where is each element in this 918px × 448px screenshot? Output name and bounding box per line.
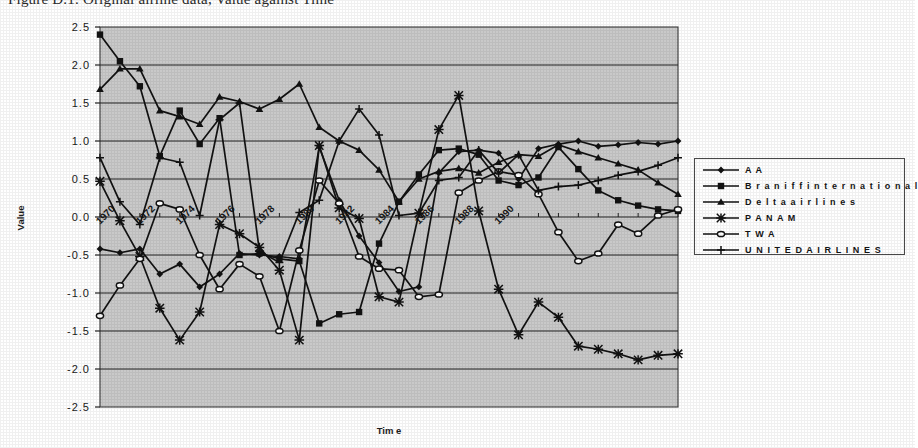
svg-text:2.5: 2.5	[72, 21, 90, 33]
svg-text:Value: Value	[15, 206, 26, 231]
svg-text:2.0: 2.0	[72, 59, 90, 71]
legend-label: U N I T E D A I R L I N E S	[741, 245, 882, 255]
legend-marker-diamond-icon	[701, 163, 741, 177]
legend-item[interactable]: B r a n i f f i n t e r n a t i o n a l	[695, 178, 904, 193]
svg-text:-0.5: -0.5	[67, 249, 90, 261]
svg-text:0.0: 0.0	[72, 211, 90, 223]
legend-item[interactable]: A A	[695, 162, 904, 177]
svg-text:1.5: 1.5	[72, 97, 90, 109]
legend-item[interactable]: U N I T E D A I R L I N E S	[695, 242, 904, 257]
legend-item[interactable]: T W A	[695, 226, 904, 241]
legend-label: D e l t a a i r l i n e s	[741, 197, 856, 207]
legend-item[interactable]: P A N A M	[695, 210, 904, 225]
legend-label: A A	[741, 165, 763, 175]
svg-text:-2.5: -2.5	[67, 401, 90, 413]
svg-text:-2.0: -2.0	[67, 363, 90, 375]
legend-label: B r a n i f f i n t e r n a t i o n a l	[741, 181, 918, 191]
legend-marker-plus-icon	[701, 243, 741, 257]
legend-item[interactable]: D e l t a a i r l i n e s	[695, 194, 904, 209]
chart-plot-area: 2.52.01.51.00.50.0-0.5-1.0-1.5-2.0-2.5 1…	[0, 0, 700, 448]
chart-legend: A A B r a n i f f i n t e r n a t i o n …	[694, 158, 905, 255]
legend-label: P A N A M	[741, 213, 796, 223]
svg-text:0.5: 0.5	[72, 173, 90, 185]
svg-text:-1.5: -1.5	[67, 325, 90, 337]
legend-marker-star-icon	[701, 211, 741, 225]
svg-text:Tim e: Tim e	[377, 425, 402, 436]
line-chart: 2.52.01.51.00.50.0-0.5-1.0-1.5-2.0-2.5 1…	[0, 0, 700, 448]
svg-text:-1.0: -1.0	[67, 287, 90, 299]
legend-marker-triangle-icon	[701, 195, 741, 209]
x-axis-title: Tim e	[377, 425, 402, 436]
y-axis-title: Value	[15, 206, 26, 231]
svg-text:1.0: 1.0	[72, 135, 90, 147]
legend-label: T W A	[741, 229, 776, 239]
legend-marker-square-icon	[701, 179, 741, 193]
legend-marker-circle-icon	[701, 227, 741, 241]
